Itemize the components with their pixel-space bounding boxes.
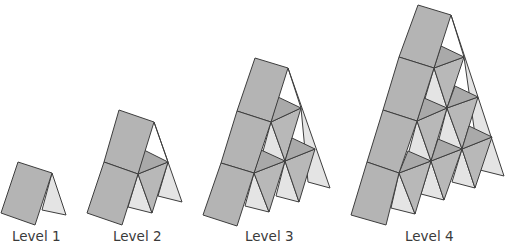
level-4-structure [351,5,504,225]
level-3-structure [203,58,330,226]
front-card-face [1,162,52,225]
front-card-face [351,162,399,225]
level-4-label: Level 4 [405,228,454,245]
card-house-diagram [0,0,509,245]
level-3-label: Level 3 [245,228,294,245]
level-2-label: Level 2 [113,228,162,245]
level-2-structure [87,110,182,225]
front-card-face [87,162,138,225]
level-1-label: Level 1 [12,228,61,245]
front-card-face [203,163,254,226]
level-1-structure [1,162,66,225]
